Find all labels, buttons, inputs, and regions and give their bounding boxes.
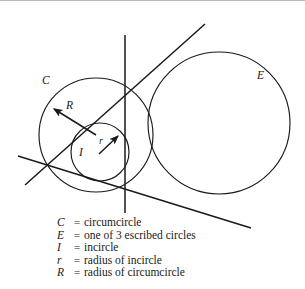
label-circumcircle-C: C — [42, 75, 50, 87]
label-escribed-circle-E: E — [257, 70, 264, 82]
legend-description: radius of incircle — [84, 254, 162, 267]
legend-row: R = radius of circumcircle — [57, 266, 267, 279]
legend-description: one of 3 escribed circles — [84, 229, 196, 242]
figure-page: C E I R r C = circumcircle E = one of 3 … — [0, 0, 305, 289]
legend-row: C = circumcircle — [57, 216, 267, 229]
label-inradius-r: r — [99, 136, 103, 146]
legend-equals-sign: = — [70, 254, 84, 267]
legend-equals-sign: = — [70, 216, 84, 229]
legend-equals-sign: = — [70, 241, 84, 254]
legend-symbol: I — [57, 241, 70, 254]
legend-description: radius of circumcircle — [84, 266, 185, 279]
legend-row: I = incircle — [57, 241, 267, 254]
legend-equals-sign: = — [70, 229, 84, 242]
upper-diagonal-side-line — [25, 24, 205, 185]
legend: C = circumcircle E = one of 3 escribed c… — [57, 216, 267, 279]
legend-equals-sign: = — [70, 266, 84, 279]
legend-row: r = radius of incircle — [57, 254, 267, 267]
legend-description: incircle — [84, 241, 118, 254]
legend-row: E = one of 3 escribed circles — [57, 229, 267, 242]
label-incircle-I: I — [79, 147, 83, 159]
escribed-circle-shape — [148, 52, 290, 194]
circumradius-arrow — [54, 109, 96, 135]
legend-symbol: R — [57, 266, 70, 279]
legend-description: circumcircle — [84, 216, 141, 229]
legend-symbol: r — [57, 254, 70, 267]
legend-symbol: E — [57, 229, 70, 242]
legend-symbol: C — [57, 216, 70, 229]
label-circumradius-R: R — [66, 100, 73, 112]
